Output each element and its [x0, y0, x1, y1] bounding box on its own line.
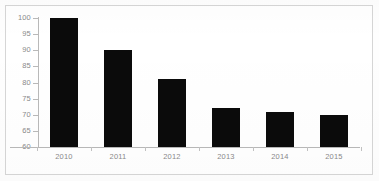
- y-tick-label-85: 85: [1, 62, 31, 70]
- x-tick-mark-3: [199, 147, 200, 151]
- bar-2013: [212, 108, 240, 147]
- x-tick-label-2013: 2013: [199, 152, 253, 161]
- bar-2011: [104, 50, 132, 147]
- bar-2010: [50, 18, 78, 147]
- x-tick-mark-4: [253, 147, 254, 151]
- y-tick-label-80: 80: [1, 79, 31, 87]
- y-tick-label-70: 70: [1, 111, 31, 119]
- bar-2012: [158, 79, 186, 147]
- x-tick-label-2014: 2014: [253, 152, 307, 161]
- y-tick-label-90: 90: [1, 46, 31, 54]
- x-tick-mark-2: [145, 147, 146, 151]
- bar-2015: [320, 115, 348, 147]
- bar-chart: 100 95 90 85 80 75 70 65 60 2010 2011 20…: [0, 0, 379, 181]
- x-tick-mark-0: [37, 147, 38, 151]
- x-tick-mark-5: [307, 147, 308, 151]
- y-tick-label-100: 100: [1, 14, 31, 22]
- x-tick-label-2011: 2011: [91, 152, 145, 161]
- y-tick-label-75: 75: [1, 95, 31, 103]
- x-tick-label-2010: 2010: [37, 152, 91, 161]
- y-tick-label-65: 65: [1, 127, 31, 135]
- y-axis-line: [38, 17, 39, 148]
- bar-2014: [266, 112, 294, 147]
- x-tick-label-2012: 2012: [145, 152, 199, 161]
- x-tick-label-2015: 2015: [307, 152, 361, 161]
- y-tick-label-95: 95: [1, 30, 31, 38]
- x-tick-mark-6: [361, 147, 362, 151]
- y-axis-tick-labels: 100 95 90 85 80 75 70 65 60: [0, 0, 31, 181]
- x-tick-mark-1: [91, 147, 92, 151]
